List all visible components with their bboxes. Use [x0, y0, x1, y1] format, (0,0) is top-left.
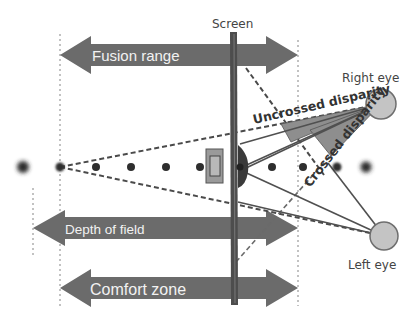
dot	[299, 163, 307, 171]
stereoscopic-diagram: Fusion range Depth of field Comfort zone	[0, 0, 416, 323]
comfort-zone-arrow: Comfort zone	[60, 269, 298, 307]
dot	[333, 163, 342, 172]
dot	[92, 163, 100, 171]
dot	[127, 163, 135, 171]
depth-of-field-arrow: Depth of field	[33, 210, 298, 246]
comfort-zone-label: Comfort zone	[90, 281, 186, 298]
screen-label: Screen	[212, 17, 253, 31]
dot	[268, 163, 276, 171]
left-eye-label: Left eye	[348, 258, 396, 272]
fusion-range-label: Fusion range	[92, 47, 180, 64]
screen	[206, 32, 248, 305]
dot	[162, 163, 170, 171]
dot	[196, 163, 204, 171]
dot-near-blurred	[361, 162, 372, 173]
fusion-range-arrow: Fusion range	[60, 36, 298, 74]
dot	[56, 163, 65, 172]
dot-far-blurred	[17, 161, 29, 173]
right-eye-label: Right eye	[342, 71, 399, 85]
left-eye-icon	[370, 222, 398, 250]
depth-of-field-label: Depth of field	[65, 222, 145, 237]
